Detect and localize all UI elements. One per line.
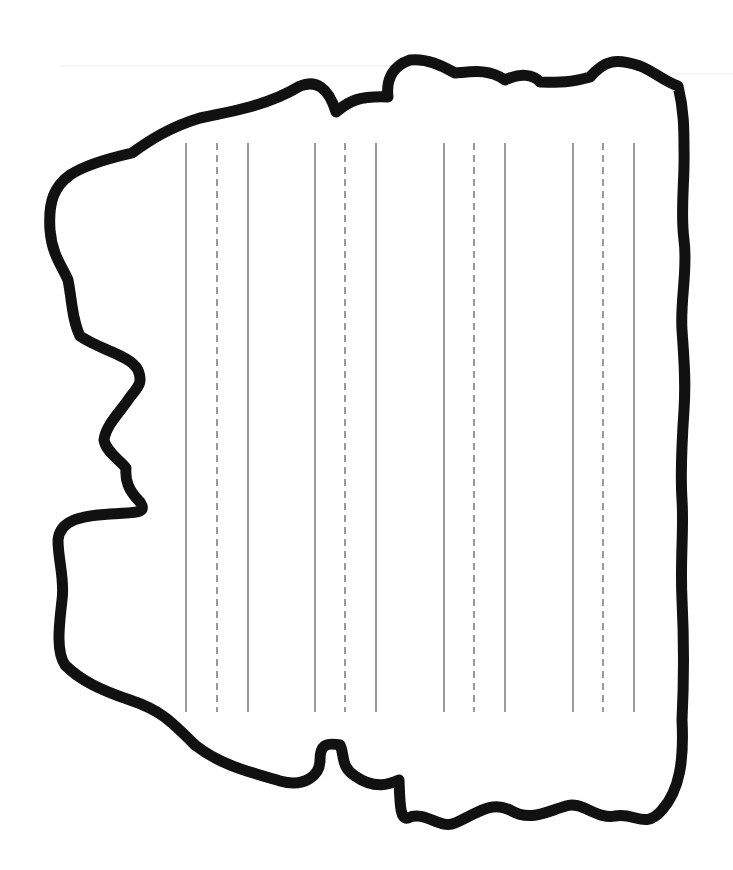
handwriting-guide-lines bbox=[186, 143, 634, 712]
worksheet-page bbox=[0, 0, 733, 870]
guide-line-group bbox=[186, 143, 248, 712]
worksheet-canvas bbox=[0, 0, 733, 870]
guide-line-group bbox=[573, 143, 634, 712]
guide-line-group bbox=[315, 143, 376, 712]
guide-line-group bbox=[444, 143, 505, 712]
state-outline-shape bbox=[50, 60, 685, 825]
